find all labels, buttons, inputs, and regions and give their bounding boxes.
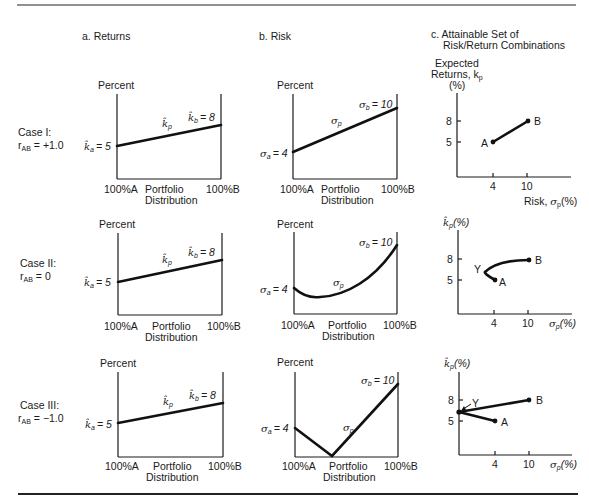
x-left-label: 100%A bbox=[282, 460, 316, 472]
y-axis-label: Percent bbox=[277, 218, 313, 230]
kp-label: k̂p bbox=[163, 395, 173, 409]
point-b-label: B bbox=[535, 254, 542, 266]
y-axis-label: Percent bbox=[100, 357, 136, 369]
x-mid-label-2: Distribution bbox=[321, 194, 374, 206]
case-2-attainable-set-chart: k̂p(%) 8 5 4 10 σp(%) A B Y bbox=[443, 216, 576, 331]
case-3-row: Case III: rAB= −1.0 Percent k̂a= 5 k̂b= … bbox=[18, 356, 577, 483]
case-2-returns-chart: Percent k̂a= 5 k̂b= 8 k̂p 100%A Portfoli… bbox=[84, 218, 241, 343]
x-tick-10: 10 bbox=[522, 317, 534, 329]
x-right-label: 100%B bbox=[384, 460, 418, 472]
point-a-label: A bbox=[499, 276, 506, 288]
case-3-label: Case III: bbox=[20, 399, 59, 411]
sigma-p-line bbox=[295, 384, 398, 456]
case-1-row: Case I: rAB= +1.0 Percent k̂a= 5 k̂b= 8 … bbox=[18, 57, 577, 209]
column-b-title: b. Risk bbox=[259, 30, 292, 42]
frontier-line-ya bbox=[459, 412, 495, 421]
y-tick-8: 8 bbox=[447, 253, 453, 265]
sp-label: σp bbox=[331, 115, 342, 128]
x-mid-label-2: Distribution bbox=[323, 471, 376, 483]
x-mid-label-2: Distribution bbox=[322, 330, 375, 342]
y-tick-8: 8 bbox=[448, 394, 454, 406]
kp-label: k̂p bbox=[162, 117, 172, 131]
sp-label: σp bbox=[333, 277, 344, 290]
point-y-label: Y bbox=[472, 397, 479, 409]
case-2-row: Case II: rAB= 0 Percent k̂a= 5 k̂b= 8 k̂… bbox=[20, 216, 576, 343]
ka-label: k̂a= 5 bbox=[84, 140, 111, 153]
x-mid-label-2: Distribution bbox=[145, 331, 198, 343]
case-1-corr: rAB= +1.0 bbox=[18, 139, 64, 152]
y-axis-label-3: (%) bbox=[449, 79, 465, 91]
x-tick-10: 10 bbox=[521, 180, 533, 192]
frontier-line bbox=[493, 121, 528, 142]
case-3-risk-chart: Percent σa= 4 σb= 10 σp 100%A Portfolio … bbox=[261, 356, 418, 483]
sa-label: σa= 4 bbox=[260, 147, 288, 160]
x-right-label: 100%B bbox=[381, 183, 415, 195]
y-tick-8: 8 bbox=[446, 115, 452, 127]
column-c-title-line2: Risk/Return Combinations bbox=[443, 39, 565, 51]
y-tick-5: 5 bbox=[447, 274, 453, 286]
x-tick-10: 10 bbox=[523, 458, 535, 470]
point-b-label: B bbox=[536, 394, 543, 406]
case-3-attainable-set-chart: k̂p(%) 8 5 4 10 σp(%) Y A B bbox=[444, 357, 577, 472]
kp-label: k̂p bbox=[162, 253, 172, 267]
y-axis-label: k̂p(%) bbox=[444, 357, 470, 371]
x-axis-label: σp(%) bbox=[549, 317, 576, 331]
point-a-label: A bbox=[501, 416, 508, 428]
x-right-label: 100%B bbox=[206, 183, 240, 195]
x-left-label: 100%A bbox=[104, 320, 138, 332]
x-tick-4: 4 bbox=[490, 180, 496, 192]
y-axis-label: Percent bbox=[99, 218, 135, 230]
sigma-p-curve bbox=[294, 245, 397, 297]
x-tick-4: 4 bbox=[492, 458, 498, 470]
x-axis-label: σp(%) bbox=[550, 458, 577, 472]
frontier-line-yb bbox=[459, 400, 529, 412]
sb-label: σb= 10 bbox=[359, 98, 393, 111]
x-mid-label-2: Distribution bbox=[146, 471, 199, 483]
case-3-corr: rAB= −1.0 bbox=[18, 412, 64, 425]
y-axis-label: k̂p(%) bbox=[443, 216, 469, 230]
case-1-returns-chart: Percent k̂a= 5 k̂b= 8 k̂p 100%A Portfoli… bbox=[84, 79, 240, 206]
kb-label: k̂b= 8 bbox=[189, 389, 216, 402]
x-left-label: 100%A bbox=[105, 460, 139, 472]
kb-label: k̂b= 8 bbox=[188, 246, 215, 259]
y-axis-label: Percent bbox=[98, 79, 134, 91]
x-tick-4: 4 bbox=[491, 317, 497, 329]
sb-label: σb= 10 bbox=[361, 374, 395, 387]
x-right-label: 100%B bbox=[208, 460, 242, 472]
case-2-risk-chart: Percent σa= 4 σb= 10 σp 100%A Portfolio … bbox=[260, 218, 417, 342]
point-a-label: A bbox=[481, 137, 488, 149]
case-2-label: Case II: bbox=[20, 257, 56, 269]
case-1-risk-chart: Percent σa= 4 σb= 10 σp 100%A Portfolio … bbox=[260, 79, 415, 206]
frontier-curve bbox=[485, 260, 529, 280]
case-3-returns-chart: Percent k̂a= 5 k̂b= 8 k̂p 100%A Portfoli… bbox=[85, 357, 242, 483]
sigma-p-line bbox=[293, 108, 397, 152]
x-left-label: 100%A bbox=[104, 183, 138, 195]
case-1-label: Case I: bbox=[18, 126, 51, 138]
sa-label: σa= 4 bbox=[260, 283, 288, 296]
x-right-label: 100%B bbox=[207, 320, 241, 332]
ka-label: k̂a= 5 bbox=[85, 418, 112, 431]
sp-label: σp bbox=[343, 422, 354, 435]
x-mid-label-2: Distribution bbox=[145, 194, 198, 206]
ka-label: k̂a= 5 bbox=[84, 276, 111, 289]
y-axis-label: Percent bbox=[277, 356, 313, 368]
y-tick-5: 5 bbox=[446, 136, 452, 148]
case-2-corr: rAB= 0 bbox=[20, 270, 51, 283]
x-right-label: 100%B bbox=[383, 319, 417, 331]
column-a-title: a. Returns bbox=[82, 30, 130, 42]
x-left-label: 100%A bbox=[281, 319, 315, 331]
case-1-attainable-set-chart: Expected Returns, kp (%) 8 5 4 10 Risk, … bbox=[431, 57, 577, 209]
y-tick-5: 5 bbox=[448, 415, 454, 427]
x-axis-label: Risk, σp(%) bbox=[524, 195, 577, 209]
point-y-label: Y bbox=[474, 263, 481, 275]
sa-label: σa= 4 bbox=[261, 422, 289, 435]
x-left-label: 100%A bbox=[280, 183, 314, 195]
y-axis-label: Percent bbox=[277, 79, 313, 91]
kb-label: k̂b= 8 bbox=[188, 111, 215, 124]
figure-canvas: a. Returns b. Risk c. Attainable Set of … bbox=[0, 0, 589, 503]
sb-label: σb= 10 bbox=[359, 236, 393, 249]
point-b-label: B bbox=[534, 115, 541, 127]
